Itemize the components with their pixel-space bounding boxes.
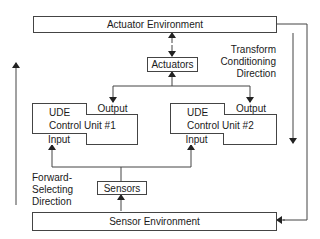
control-unit-1-output: Output [86, 103, 138, 115]
actuator-environment-label: Actuator Environment [107, 19, 203, 30]
control-unit-1-title: UDE [49, 107, 70, 118]
sensors-box: Sensors [97, 181, 147, 195]
actuator-environment-box: Actuator Environment [33, 16, 277, 33]
control-unit-1: UDE Output Control Unit #1 Input [32, 103, 138, 145]
control-unit-2: UDE Output Control Unit #2 Input [170, 103, 277, 145]
forward-selecting-note: Forward- Selecting Direction [32, 172, 73, 208]
control-unit-2-name: Control Unit #2 [187, 120, 254, 131]
sensors-label: Sensors [104, 183, 141, 194]
control-unit-2-output: Output [224, 103, 277, 115]
sensor-environment-label: Sensor Environment [109, 216, 200, 227]
transform-conditioning-note: Transform Conditioning Direction [220, 44, 276, 80]
control-unit-2-title: UDE [187, 107, 208, 118]
actuators-label: Actuators [151, 59, 193, 70]
control-unit-2-input: Input [170, 133, 224, 145]
control-unit-1-name: Control Unit #1 [49, 120, 116, 131]
sensor-environment-box: Sensor Environment [32, 212, 277, 231]
control-unit-1-input: Input [32, 133, 87, 145]
actuators-box: Actuators [147, 57, 198, 72]
